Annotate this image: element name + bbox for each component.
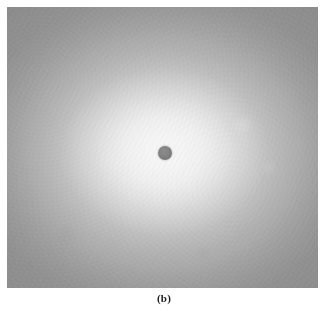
figure-container: (b): [0, 0, 328, 313]
figure-caption: (b): [0, 292, 328, 305]
diffraction-plate: [7, 7, 318, 288]
beam-stop-dot: [158, 146, 172, 160]
